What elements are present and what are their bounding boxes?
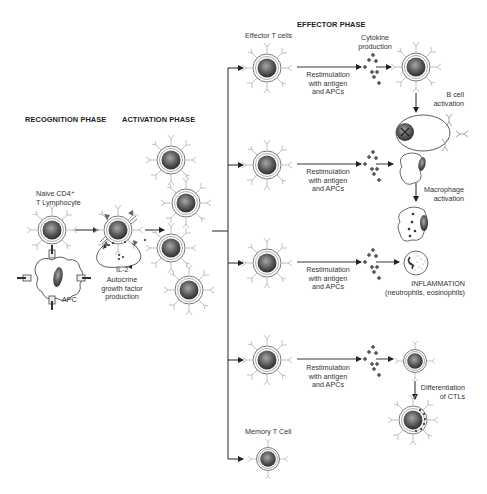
cytokine-production-label: Cytokine production xyxy=(350,34,400,51)
b-cell-activation-label: B cell activation xyxy=(420,91,464,108)
macrophage-activation-label: Macrophage activation xyxy=(420,186,464,203)
effector-t-cells-label: Effector T cells xyxy=(245,32,292,41)
memory-t-cell xyxy=(248,439,288,479)
restimulation-label-2: Restimulation with antigen and APCs xyxy=(298,168,358,194)
memory-t-cell-label: Memory T Cell xyxy=(245,428,291,437)
apc-label: APC xyxy=(62,296,77,305)
inflammation-label: INFLAMMATION (neutrophils, eosinophils) xyxy=(380,280,465,297)
clonal-expansion-cells xyxy=(146,135,214,315)
il2-label: IL-2 xyxy=(116,266,128,275)
restimulation-label-3: Restimulation with antigen and APCs xyxy=(298,266,358,292)
branch-lines xyxy=(212,68,243,459)
activated-t-cell xyxy=(93,205,146,269)
apc-cell xyxy=(17,245,91,310)
activation-phase-heading: ACTIVATION PHASE xyxy=(122,115,195,124)
restimulation-label-1: Restimulation with antigen and APCs xyxy=(298,71,358,97)
naive-cd4-label: Naive CD4⁺ T Lymphocyte xyxy=(36,190,81,207)
restimulation-label-4: Restimulation with antigen and APCs xyxy=(298,364,358,390)
recognition-phase-heading: RECOGNITION PHASE xyxy=(25,115,106,124)
effector-phase-heading: EFFECTOR PHASE xyxy=(297,20,366,29)
t-cell-response-diagram xyxy=(0,0,487,494)
ctl-differentiation-label: Differentiation of CTLs xyxy=(410,384,465,401)
autocrine-label: Autocrine growth factor production xyxy=(98,276,146,302)
